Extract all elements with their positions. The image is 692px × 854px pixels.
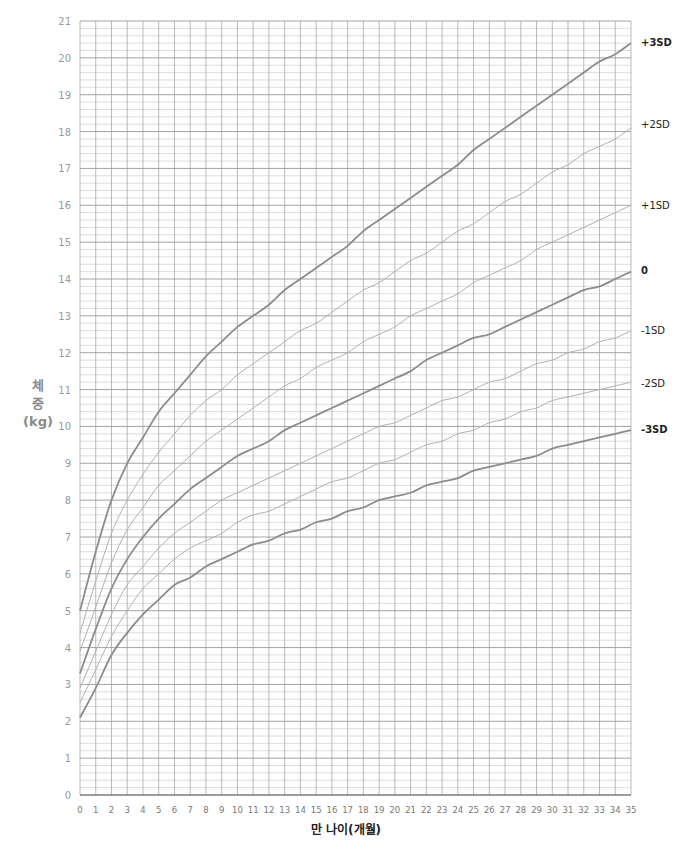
curve-0 (80, 272, 631, 674)
x-tick-label: 17 (342, 805, 353, 815)
y-tick-label: 8 (65, 495, 71, 506)
x-tick-label: 6 (172, 805, 177, 815)
x-tick-label: 21 (405, 805, 416, 815)
x-tick-label: 18 (358, 805, 369, 815)
x-tick-label: 7 (187, 805, 192, 815)
curve-plus1SD (80, 205, 631, 651)
y-tick-label: 16 (58, 200, 71, 211)
sd-label: +1SD (641, 200, 670, 211)
y-tick-label: 0 (65, 790, 71, 801)
sd-label: +2SD (641, 119, 670, 130)
x-tick-label: 16 (326, 805, 337, 815)
y-tick-label: 17 (58, 163, 71, 174)
x-axis-ticks: 0123456789101112131415161718192021222324… (77, 805, 636, 815)
x-tick-label: 14 (295, 805, 306, 815)
y-axis-ticks: 0123456789101112131415161718192021 (58, 16, 71, 801)
x-axis-label: 만 나이(개월) (311, 822, 381, 837)
x-tick-label: 28 (515, 805, 526, 815)
x-tick-label: 35 (626, 805, 637, 815)
y-tick-label: 7 (65, 532, 71, 543)
x-tick-label: 1 (93, 805, 98, 815)
y-tick-label: 4 (65, 643, 71, 654)
x-tick-label: 15 (311, 805, 322, 815)
y-tick-label: 21 (58, 16, 71, 27)
y-tick-label: 9 (65, 458, 71, 469)
x-tick-label: 29 (531, 805, 542, 815)
y-axis-label-2: 중 (32, 396, 44, 411)
x-tick-label: 33 (594, 805, 605, 815)
y-tick-label: 15 (58, 237, 71, 248)
y-tick-label: 12 (58, 348, 71, 359)
x-tick-label: 5 (156, 805, 161, 815)
curves (80, 43, 631, 717)
x-tick-label: 10 (232, 805, 243, 815)
x-tick-label: 3 (125, 805, 130, 815)
y-tick-label: 3 (65, 679, 71, 690)
sd-label: -2SD (641, 378, 665, 389)
y-tick-label: 19 (58, 90, 71, 101)
y-tick-label: 18 (58, 127, 71, 138)
x-tick-label: 31 (563, 805, 574, 815)
x-tick-label: 34 (610, 805, 621, 815)
x-tick-label: 32 (578, 805, 589, 815)
y-tick-label: 14 (58, 274, 71, 285)
x-tick-label: 2 (109, 805, 114, 815)
y-axis-label-3: (kg) (23, 414, 53, 429)
y-tick-label: 1 (65, 753, 71, 764)
y-tick-label: 11 (58, 385, 71, 396)
x-tick-label: 22 (421, 805, 432, 815)
x-tick-label: 26 (484, 805, 495, 815)
x-tick-label: 12 (264, 805, 275, 815)
growth-chart: 0123456789101112131415161718192021 01234… (0, 0, 692, 854)
x-tick-label: 30 (547, 805, 558, 815)
sd-label: +3SD (641, 37, 672, 48)
x-tick-label: 8 (203, 805, 208, 815)
sd-label: -1SD (641, 325, 665, 336)
sd-label: -3SD (641, 424, 668, 435)
y-axis-label-1: 체 (32, 378, 44, 393)
x-tick-label: 25 (468, 805, 479, 815)
x-tick-label: 27 (500, 805, 511, 815)
x-tick-label: 23 (437, 805, 448, 815)
x-tick-label: 13 (279, 805, 290, 815)
y-tick-label: 10 (58, 421, 71, 432)
y-tick-label: 2 (65, 716, 71, 727)
x-tick-label: 20 (389, 805, 400, 815)
sd-labels: +3SD+2SD+1SD0-1SD-2SD-3SD (641, 37, 672, 435)
x-tick-label: 24 (452, 805, 463, 815)
y-tick-label: 13 (58, 311, 71, 322)
y-tick-label: 20 (58, 53, 71, 64)
x-tick-label: 4 (140, 805, 145, 815)
x-tick-label: 9 (219, 805, 224, 815)
y-tick-label: 5 (65, 606, 71, 617)
x-tick-label: 0 (77, 805, 82, 815)
x-tick-label: 11 (248, 805, 259, 815)
curve-plus2SD (80, 128, 631, 633)
y-tick-label: 6 (65, 569, 71, 580)
curve-plus3SD (80, 43, 631, 611)
x-tick-label: 19 (374, 805, 385, 815)
sd-label: 0 (641, 265, 648, 276)
